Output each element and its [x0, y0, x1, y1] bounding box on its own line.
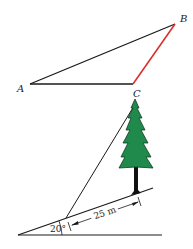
tree-slope-figure: 20° 25 m — [18, 99, 162, 235]
dim-tick-left — [68, 222, 71, 231]
dim-tick-right — [138, 197, 141, 206]
vertex-label-b: B — [179, 13, 187, 24]
angle-label: 20° — [50, 224, 66, 234]
tree-trunk — [131, 165, 141, 195]
triangle-abc: A B C — [16, 13, 187, 99]
arrowhead-left — [71, 221, 79, 226]
arrowhead-right — [132, 202, 139, 207]
diagram-canvas: A B C 20° 25 m — [0, 0, 193, 249]
tree-icon — [119, 99, 153, 168]
vertex-label-c: C — [133, 88, 141, 99]
vertex-label-a: A — [16, 83, 24, 94]
slope-line — [18, 188, 153, 235]
distance-label: 25 m — [92, 204, 117, 221]
